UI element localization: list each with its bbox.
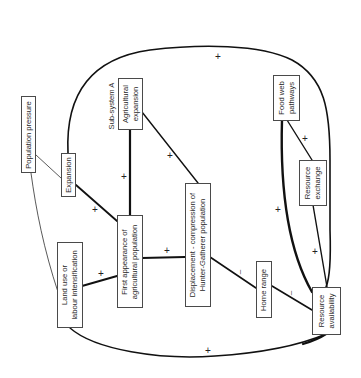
line-1: First appearance of [120,229,129,294]
line-2: expansion [131,87,140,122]
line-1: Land use or [60,265,69,305]
edge-displacement-to-home [210,257,256,288]
sign-expansion-to-first: + [90,205,100,215]
line-2: pathways [287,82,296,114]
node-food-web-pathways: Food web pathways [273,75,300,121]
sign-displacement-to-home: – [235,267,245,277]
edge-foodweb-to-resource [282,120,312,292]
edge-pop-to-expansion [36,155,61,178]
edge-resource-bottom-thick [303,334,326,344]
node-land-use: Land use or labour intensification [57,242,83,328]
line-2: labour intensification [70,250,79,319]
causal-loop-diagram: Sub-system A Population pressure Expansi… [0,0,361,378]
line-1: Resource [317,295,326,328]
sign-home-to-resource: – [286,288,296,298]
node-resource-exchange: Resource exchange [299,160,327,206]
edge-bottom-loop [70,328,326,357]
line-1: Agricultural [121,85,130,123]
sign-foodweb-to-resource: + [273,205,283,215]
node-expansion: Expansion [61,153,76,197]
line-2: agricultural population [130,224,139,298]
node-resource-availability: Resource availability [312,287,341,335]
sign-agri-to-first: + [119,172,129,182]
edge-first-to-displacement [142,257,185,258]
sign-exchange-to-resource: + [310,247,320,257]
node-population-pressure: Population pressure [21,96,36,173]
sign-land-to-first: + [96,269,106,279]
line-1: Displacement - compression of [188,193,197,297]
sign-top-loop: + [213,52,223,62]
line-2: exchange [313,167,322,200]
sign-bottom-loop: + [203,346,213,356]
edge-agri-to-displacement [142,112,198,183]
sign-first-to-displacement: + [162,246,172,256]
node-home-range: Home range [256,261,272,318]
line-1: Resource [303,167,312,200]
node-first-appearance: First appearance of agricultural populat… [117,215,143,308]
line-2: availability [327,293,336,328]
node-agricultural-expansion: Agricultural expansion [118,78,143,130]
node-displacement: Displacement - compression of Hunter-Gat… [185,183,211,307]
line-2: Hunter-Gatherer population [198,199,207,291]
line-1: Food web [277,81,286,114]
sign-agri-to-displacement: + [165,151,175,161]
edge-expansion-to-first [76,185,117,221]
subsystem-a-label: Sub-system A [107,80,117,132]
edge-pop-to-land [31,173,58,292]
sign-foodweb-to-exchange: + [300,134,310,144]
